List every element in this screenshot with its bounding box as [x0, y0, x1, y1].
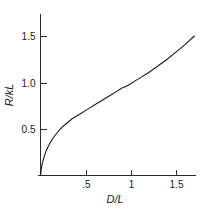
y-axis-title: R/kL [3, 84, 15, 107]
y-tick-label: 1.5 [22, 31, 36, 42]
x-tick-label: 1 [129, 179, 135, 190]
x-axis-ticks [87, 170, 177, 176]
x-tick-label: .5 [82, 179, 91, 190]
y-tick-label: 1.0 [22, 78, 36, 89]
chart-plot-area: 0.51.01.5 .511.5 D/L R/kL [0, 0, 207, 213]
y-tick-label: 0.5 [22, 124, 36, 135]
x-axis-tick-labels: .511.5 [82, 179, 184, 190]
x-axis-title: D/L [106, 193, 123, 205]
y-axis-ticks [41, 37, 47, 130]
y-axis-tick-labels: 0.51.01.5 [22, 31, 36, 135]
data-curve-r-over-kl [41, 36, 195, 176]
chart-figure: 0.51.01.5 .511.5 D/L R/kL [0, 0, 207, 213]
x-tick-label: 1.5 [170, 179, 184, 190]
